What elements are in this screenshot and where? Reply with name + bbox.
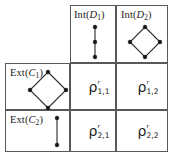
rho-subscript-2-1: 2,1: [97, 132, 109, 140]
rho-superscript-2-1: r: [97, 123, 100, 130]
rho-glyph-1-2: ρr1,2: [138, 80, 147, 94]
graph-int-d2: [128, 24, 162, 60]
rho-expression-2-2: ρr2,2: [117, 111, 167, 151]
header-label-int-d1-prefix: Int: [74, 9, 86, 20]
rho-expression-2-1: ρr2,1: [71, 111, 115, 151]
header-label-int-d1-paren-close: ): [101, 9, 105, 20]
rho-subscript-2-2: 2,2: [146, 132, 158, 140]
cell-rho-2-2: ρr2,2: [116, 110, 168, 152]
cell-rho-1-2: ρr1,2: [116, 63, 168, 110]
graph-int-d1: [87, 24, 103, 60]
row-label-ext-c2: Ext(C2): [10, 115, 43, 126]
header-label-int-d2: Int(D2): [121, 10, 152, 21]
rho-expression-1-1: ρr1,1: [71, 64, 115, 109]
rho-glyph-2-1: ρr2,1: [89, 124, 98, 138]
row-label-ext-c2-paren-close: ): [39, 114, 43, 125]
row-header-cell-ext-c2: Ext(C2): [5, 110, 70, 152]
row-label-ext-c2-symbol: C: [29, 114, 36, 125]
header-label-int-d2-paren-close: ): [148, 9, 152, 20]
cell-rho-2-1: ρr2,1: [70, 110, 116, 152]
rho-base-1-1: ρ: [89, 79, 98, 95]
header-cell-int-d2: Int(D2): [116, 5, 168, 63]
header-label-int-d2-prefix: Int: [121, 9, 133, 20]
rho-subscript-1-1: 1,1: [97, 88, 109, 96]
matrix-grid: Int(D1) Int(D2) Ext(C1): [5, 5, 168, 154]
rho-superscript-1-1: r: [97, 79, 100, 86]
rho-glyph-2-2: ρr2,2: [138, 124, 147, 138]
rho-glyph-1-1: ρr1,1: [89, 80, 98, 94]
row-label-ext-c1-prefix: Ext: [10, 67, 25, 78]
rho-superscript-2-2: r: [146, 123, 149, 130]
rho-base-1-2: ρ: [138, 79, 147, 95]
graph-ext-c1: [27, 69, 69, 111]
graph-ext-c2: [50, 115, 64, 149]
rho-base-2-1: ρ: [89, 123, 98, 139]
rho-base-2-2: ρ: [138, 123, 147, 139]
rho-superscript-1-2: r: [146, 79, 149, 86]
rho-subscript-1-2: 1,2: [146, 88, 158, 96]
header-label-int-d1: Int(D1): [74, 10, 105, 21]
header-cell-int-d1: Int(D1): [70, 5, 116, 63]
rho-expression-1-2: ρr1,2: [117, 64, 167, 109]
row-label-ext-c2-prefix: Ext: [10, 114, 25, 125]
figure-matrix-of-restriction-maps: Int(D1) Int(D2) Ext(C1): [0, 0, 173, 159]
row-header-cell-ext-c1: Ext(C1): [5, 63, 70, 110]
cell-rho-1-1: ρr1,1: [70, 63, 116, 110]
